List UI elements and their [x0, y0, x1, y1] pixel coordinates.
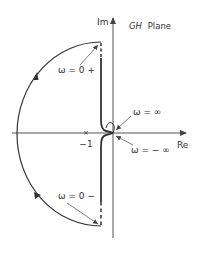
nyquist-diagram: × −1 Im Re GH Plane ω = 0 + ω = 0 − ω = …	[0, 0, 203, 253]
omega-zero-minus-annotation: ω = 0 −	[58, 191, 98, 224]
nyquist-main-curve	[101, 58, 114, 202]
real-axis-label: Re	[177, 140, 189, 150]
omega-infinity-annotation: ω = ∞	[116, 107, 161, 130]
omega-neg-infinity-annotation: ω = − ∞	[116, 136, 170, 155]
critical-point-marker: × −1	[79, 129, 92, 149]
svg-text:×: ×	[83, 129, 89, 137]
plane-title-plane: Plane	[148, 21, 171, 31]
svg-text:ω = 0 +: ω = 0 +	[58, 65, 95, 75]
critical-point-label: −1	[79, 139, 92, 149]
svg-text:ω = − ∞: ω = − ∞	[131, 145, 170, 155]
imaginary-axis-label: Im	[97, 17, 108, 27]
svg-text:ω = ∞: ω = ∞	[133, 107, 161, 117]
plane-title-gh: GH	[129, 21, 143, 31]
plane-title: GH Plane	[129, 21, 171, 31]
omega-zero-plus-annotation: ω = 0 +	[58, 45, 98, 75]
svg-text:ω = 0 −: ω = 0 −	[58, 191, 95, 201]
